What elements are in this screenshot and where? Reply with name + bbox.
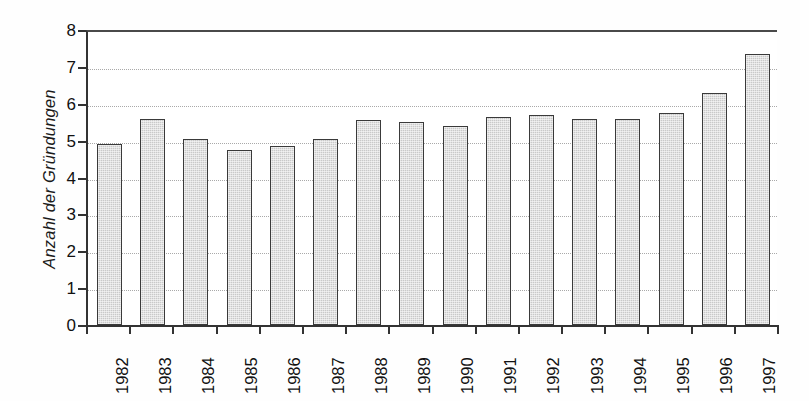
y-tick-label: 3	[67, 206, 76, 223]
bar	[615, 119, 640, 326]
bar	[529, 115, 554, 325]
x-tick-mark	[561, 325, 563, 334]
y-tick-label: 5	[67, 132, 76, 149]
x-tick-mark	[604, 325, 606, 334]
y-tick-label: 4	[67, 169, 76, 186]
x-tick-label: 1996	[718, 357, 735, 394]
x-tick-label: 1993	[589, 357, 606, 394]
x-tick-label: 1986	[286, 357, 303, 394]
x-tick-mark	[302, 325, 304, 334]
x-tick-label: 1987	[330, 357, 347, 394]
x-tick-label: 1990	[459, 357, 476, 394]
y-tick-label: 8	[67, 22, 76, 39]
x-tick-label: 1992	[545, 357, 562, 394]
x-tick-mark	[777, 325, 779, 334]
bar	[659, 113, 684, 325]
bar	[443, 126, 468, 325]
x-tick-mark	[475, 325, 477, 334]
y-tick-label: 6	[67, 95, 76, 112]
plot-area	[86, 30, 777, 325]
x-tick-label: 1983	[157, 357, 174, 394]
bars-layer	[88, 32, 777, 325]
x-tick-label: 1997	[761, 357, 778, 394]
x-tick-label: 1995	[675, 357, 692, 394]
x-tick-mark	[647, 325, 649, 334]
bar	[486, 117, 511, 325]
x-tick-mark	[734, 325, 736, 334]
x-tick-label: 1982	[114, 357, 131, 394]
x-axis-tick-marks	[86, 325, 779, 335]
x-tick-mark	[691, 325, 693, 334]
y-tick-label: 7	[67, 58, 76, 75]
bar	[702, 93, 727, 325]
y-tick-label: 0	[67, 317, 76, 334]
x-tick-mark	[129, 325, 131, 334]
bar	[313, 139, 338, 325]
x-tick-mark	[388, 325, 390, 334]
x-tick-mark	[216, 325, 218, 334]
bar	[227, 150, 252, 325]
bar	[356, 120, 381, 325]
bar	[270, 146, 295, 325]
y-tick-label: 2	[67, 243, 76, 260]
x-tick-mark	[259, 325, 261, 334]
x-tick-label: 1984	[200, 357, 217, 394]
x-tick-label: 1988	[373, 357, 390, 394]
x-axis-tick-labels: 1982198319841985198619871988198919901991…	[86, 336, 779, 398]
x-tick-mark	[518, 325, 520, 334]
bar	[97, 144, 122, 325]
bar	[399, 122, 424, 325]
bar	[140, 119, 165, 326]
x-tick-mark	[432, 325, 434, 334]
y-axis-tick-labels: 012345678	[48, 30, 76, 325]
x-tick-label: 1994	[632, 357, 649, 394]
x-tick-label: 1985	[243, 357, 260, 394]
bar	[183, 139, 208, 325]
bar-chart: Anzahl der Gründungen 012345678 19821983…	[0, 0, 809, 401]
x-tick-label: 1991	[502, 357, 519, 394]
x-tick-label: 1989	[416, 357, 433, 394]
x-tick-mark	[172, 325, 174, 334]
bar	[572, 119, 597, 326]
x-tick-mark	[345, 325, 347, 334]
x-tick-mark	[86, 325, 88, 334]
bar	[745, 54, 770, 325]
y-tick-label: 1	[67, 280, 76, 297]
